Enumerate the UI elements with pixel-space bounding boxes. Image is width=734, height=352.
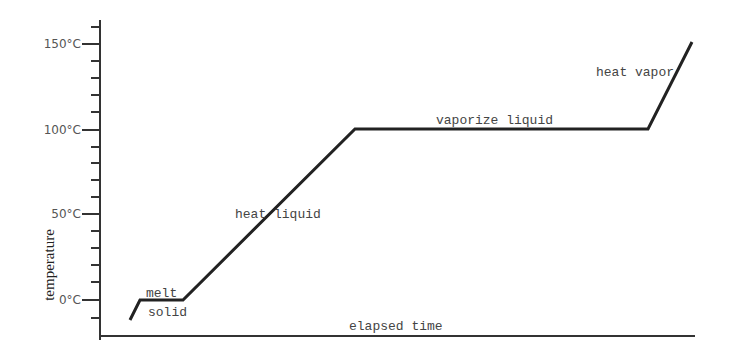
- y-minor-ticks: [91, 27, 100, 318]
- annotation-solid: solid: [148, 305, 187, 320]
- annotation-heat-liquid: heat liquid: [235, 207, 321, 222]
- y-tick-label-0: 0°C: [59, 293, 81, 307]
- y-major-ticks: [82, 44, 100, 300]
- y-tick-label-50: 50°C: [51, 207, 81, 221]
- y-tick-label-150: 150°C: [44, 37, 81, 51]
- annotation-heat-vapor: heat vapor: [596, 65, 674, 80]
- y-tick-label-100: 100°C: [44, 123, 81, 137]
- y-axis-label: temperature: [41, 229, 57, 301]
- x-axis-label: elapsed time: [349, 319, 443, 334]
- heating-curve-line: [130, 42, 692, 320]
- annotation-melt: melt: [146, 286, 177, 301]
- annotation-vaporize-liquid: vaporize liquid: [436, 113, 553, 128]
- heating-curve-chart: 150°C 100°C 50°C 0°C temperature melt so…: [0, 0, 734, 352]
